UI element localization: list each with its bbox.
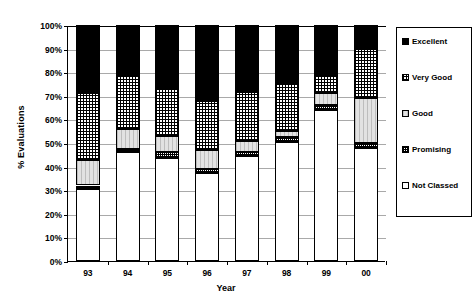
bar-segment-notclassed[interactable] bbox=[195, 173, 219, 262]
bar-segment-excellent[interactable] bbox=[195, 25, 219, 101]
y-axis-tick bbox=[64, 168, 68, 169]
bar-segment-excellent[interactable] bbox=[275, 25, 299, 84]
x-axis-tick bbox=[148, 261, 149, 265]
x-axis-title: Year bbox=[67, 283, 385, 293]
bar-segment-promising[interactable] bbox=[354, 143, 378, 148]
bar-group[interactable] bbox=[354, 25, 378, 261]
bar-segment-promising[interactable] bbox=[116, 149, 140, 153]
bar-segment-good[interactable] bbox=[275, 131, 299, 137]
bar-segment-excellent[interactable] bbox=[354, 25, 378, 49]
x-axis-tick bbox=[187, 261, 188, 265]
x-axis-tick-label: 94 bbox=[123, 268, 132, 278]
legend-item-promising[interactable]: Promising bbox=[402, 145, 451, 154]
x-axis-tick bbox=[307, 261, 308, 265]
y-axis-tick-label: 0% bbox=[50, 257, 62, 267]
bar-segment-good[interactable] bbox=[76, 160, 100, 186]
bar-segment-promising[interactable] bbox=[275, 137, 299, 142]
bar-segment-verygood[interactable] bbox=[314, 76, 338, 94]
legend-item-excellent[interactable]: Excellent bbox=[402, 37, 447, 46]
y-axis-tick bbox=[64, 238, 68, 239]
y-axis-tick bbox=[64, 120, 68, 121]
bar-segment-notclassed[interactable] bbox=[354, 148, 378, 261]
y-axis-tick bbox=[64, 191, 68, 192]
bar-segment-verygood[interactable] bbox=[195, 101, 219, 151]
y-axis-tick-label: 60% bbox=[45, 115, 62, 125]
x-axis-tick bbox=[386, 261, 387, 265]
x-axis-tick bbox=[227, 261, 228, 265]
bar-segment-verygood[interactable] bbox=[354, 49, 378, 99]
bar-group[interactable] bbox=[76, 25, 100, 261]
y-axis-tick-label: 10% bbox=[45, 233, 62, 243]
legend-swatch-promising-icon bbox=[402, 146, 409, 153]
legend-swatch-notclassed-icon bbox=[402, 182, 409, 189]
x-axis-tick-label: 96 bbox=[202, 268, 211, 278]
bar-segment-good[interactable] bbox=[235, 141, 259, 153]
x-axis-tick bbox=[346, 261, 347, 265]
legend-label: Excellent bbox=[412, 37, 447, 46]
bar-segment-verygood[interactable] bbox=[116, 75, 140, 129]
y-axis-title: % Evaluations bbox=[16, 77, 26, 197]
bar-segment-notclassed[interactable] bbox=[314, 110, 338, 261]
x-axis-tick-label: 00 bbox=[361, 268, 370, 278]
y-axis-tick bbox=[64, 73, 68, 74]
y-axis-tick-label: 70% bbox=[45, 92, 62, 102]
y-axis-tick bbox=[64, 26, 68, 27]
legend-item-verygood[interactable]: Very Good bbox=[402, 73, 452, 82]
bar-segment-good[interactable] bbox=[314, 93, 338, 105]
x-axis-tick-label: 98 bbox=[282, 268, 291, 278]
bar-segment-promising[interactable] bbox=[314, 105, 338, 110]
bar-segment-excellent[interactable] bbox=[155, 25, 179, 89]
bar-segment-good[interactable] bbox=[116, 129, 140, 149]
bar-segment-verygood[interactable] bbox=[76, 93, 100, 159]
bar-segment-promising[interactable] bbox=[76, 186, 100, 190]
bar-segment-excellent[interactable] bbox=[76, 25, 100, 93]
bar-segment-good[interactable] bbox=[155, 136, 179, 153]
bar-group[interactable] bbox=[155, 25, 179, 261]
chart-legend: ExcellentVery GoodGoodPromisingNot Class… bbox=[396, 27, 472, 217]
legend-label: Good bbox=[412, 109, 433, 118]
bar-segment-verygood[interactable] bbox=[155, 89, 179, 136]
y-axis-tick-label: 100% bbox=[40, 21, 62, 31]
y-axis-tick-label: 80% bbox=[45, 68, 62, 78]
bar-segment-verygood[interactable] bbox=[275, 84, 299, 131]
bar-segment-notclassed[interactable] bbox=[235, 156, 259, 261]
bar-group[interactable] bbox=[195, 25, 219, 261]
y-axis-tick bbox=[64, 50, 68, 51]
bar-segment-notclassed[interactable] bbox=[275, 142, 299, 261]
bar-segment-notclassed[interactable] bbox=[155, 158, 179, 261]
y-axis-tick bbox=[64, 144, 68, 145]
bar-segment-good[interactable] bbox=[195, 150, 219, 169]
bar-group[interactable] bbox=[314, 25, 338, 261]
legend-label: Not Classed bbox=[412, 181, 458, 190]
bar-segment-notclassed[interactable] bbox=[116, 152, 140, 261]
x-axis-tick-label: 93 bbox=[83, 268, 92, 278]
bar-segment-excellent[interactable] bbox=[235, 25, 259, 92]
legend-item-good[interactable]: Good bbox=[402, 109, 433, 118]
legend-label: Very Good bbox=[412, 73, 452, 82]
bar-segment-promising[interactable] bbox=[155, 152, 179, 158]
plot-area: 0%10%20%30%40%50%60%70%80%90%100%9394959… bbox=[67, 26, 385, 262]
bar-segment-notclassed[interactable] bbox=[76, 189, 100, 261]
bar-group[interactable] bbox=[116, 25, 140, 261]
bar-segment-excellent[interactable] bbox=[314, 25, 338, 76]
bar-group[interactable] bbox=[275, 25, 299, 261]
legend-item-notclassed[interactable]: Not Classed bbox=[402, 181, 458, 190]
x-axis-tick-label: 97 bbox=[242, 268, 251, 278]
y-axis-tick bbox=[64, 215, 68, 216]
legend-label: Promising bbox=[412, 145, 451, 154]
y-axis-tick-label: 40% bbox=[45, 163, 62, 173]
y-axis-tick-label: 30% bbox=[45, 186, 62, 196]
bar-segment-verygood[interactable] bbox=[235, 92, 259, 140]
bar-segment-excellent[interactable] bbox=[116, 25, 140, 75]
x-axis-tick bbox=[267, 261, 268, 265]
x-axis-tick-label: 95 bbox=[163, 268, 172, 278]
bar-segment-promising[interactable] bbox=[235, 152, 259, 156]
legend-swatch-excellent-icon bbox=[402, 38, 409, 45]
bar-segment-promising[interactable] bbox=[195, 169, 219, 173]
chart-figure: % Evaluations 0%10%20%30%40%50%60%70%80%… bbox=[0, 0, 476, 308]
bar-segment-good[interactable] bbox=[354, 98, 378, 143]
bar-group[interactable] bbox=[235, 25, 259, 261]
x-axis-tick bbox=[108, 261, 109, 265]
y-axis-tick-label: 50% bbox=[45, 139, 62, 149]
legend-swatch-verygood-icon bbox=[402, 74, 409, 81]
